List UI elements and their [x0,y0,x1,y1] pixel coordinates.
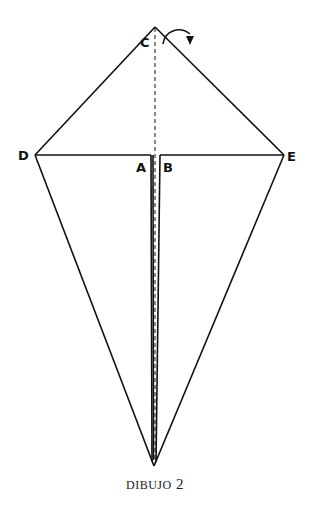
caption-word: DIBUJO [126,478,172,492]
figure-caption: DIBUJO 2 [0,476,310,493]
label-d: D [18,148,29,163]
label-c: C [140,35,150,50]
fold-arrow-icon [163,30,190,44]
kite-fold-diagram: C D A B E [0,0,310,512]
label-e: E [287,149,296,164]
label-a: A [136,160,146,175]
label-b: B [163,160,173,175]
caption-number: 2 [176,476,184,492]
arrow-head-icon [186,36,194,45]
